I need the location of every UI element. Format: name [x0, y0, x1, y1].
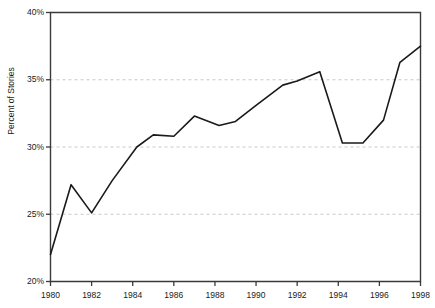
x-tick-label: 1982 — [72, 291, 112, 300]
x-tick-label: 1988 — [195, 291, 235, 300]
y-tick-label: 20% — [2, 277, 44, 286]
x-tick-label: 1992 — [277, 291, 317, 300]
y-tick-label: 25% — [2, 210, 44, 219]
x-tick-label: 1986 — [154, 291, 194, 300]
x-tick-label: 1990 — [236, 291, 276, 300]
x-tick-label: 1998 — [401, 291, 435, 300]
x-tick-label: 1994 — [318, 291, 358, 300]
y-tick-label: 40% — [2, 8, 44, 17]
x-tick-label: 1980 — [31, 291, 71, 300]
y-tick-label: 30% — [2, 143, 44, 152]
data-line-series-0 — [51, 46, 421, 254]
x-tick-label: 1996 — [359, 291, 399, 300]
y-tick-label: 35% — [2, 75, 44, 84]
line-chart-plot — [0, 0, 435, 308]
chart-container: Percent of Stories 20%25%30%35%40%198019… — [0, 0, 435, 308]
x-tick-label: 1984 — [113, 291, 153, 300]
